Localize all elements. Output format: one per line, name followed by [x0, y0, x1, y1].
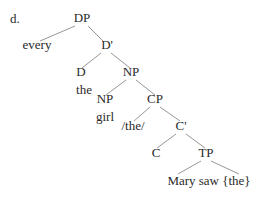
node-tp-content: Mary saw {the}: [167, 174, 250, 188]
node-the-slash: /the/: [121, 119, 144, 133]
node-cbar: C': [175, 119, 186, 133]
node-np: NP: [97, 92, 114, 106]
node-d: D: [76, 65, 85, 79]
node-the: the: [76, 83, 92, 97]
syntax-tree: DP every D' D the NP NP girl CP /the/ C'…: [0, 0, 277, 200]
node-np-top: NP: [123, 65, 140, 79]
node-girl: girl: [96, 110, 114, 124]
node-dp: DP: [74, 11, 91, 25]
node-every: every: [23, 38, 52, 52]
node-tp: TP: [198, 146, 213, 160]
node-c: C: [152, 146, 161, 160]
node-cp: CP: [147, 92, 163, 106]
node-dbar: D': [101, 38, 113, 52]
tree-branches: [0, 0, 277, 200]
